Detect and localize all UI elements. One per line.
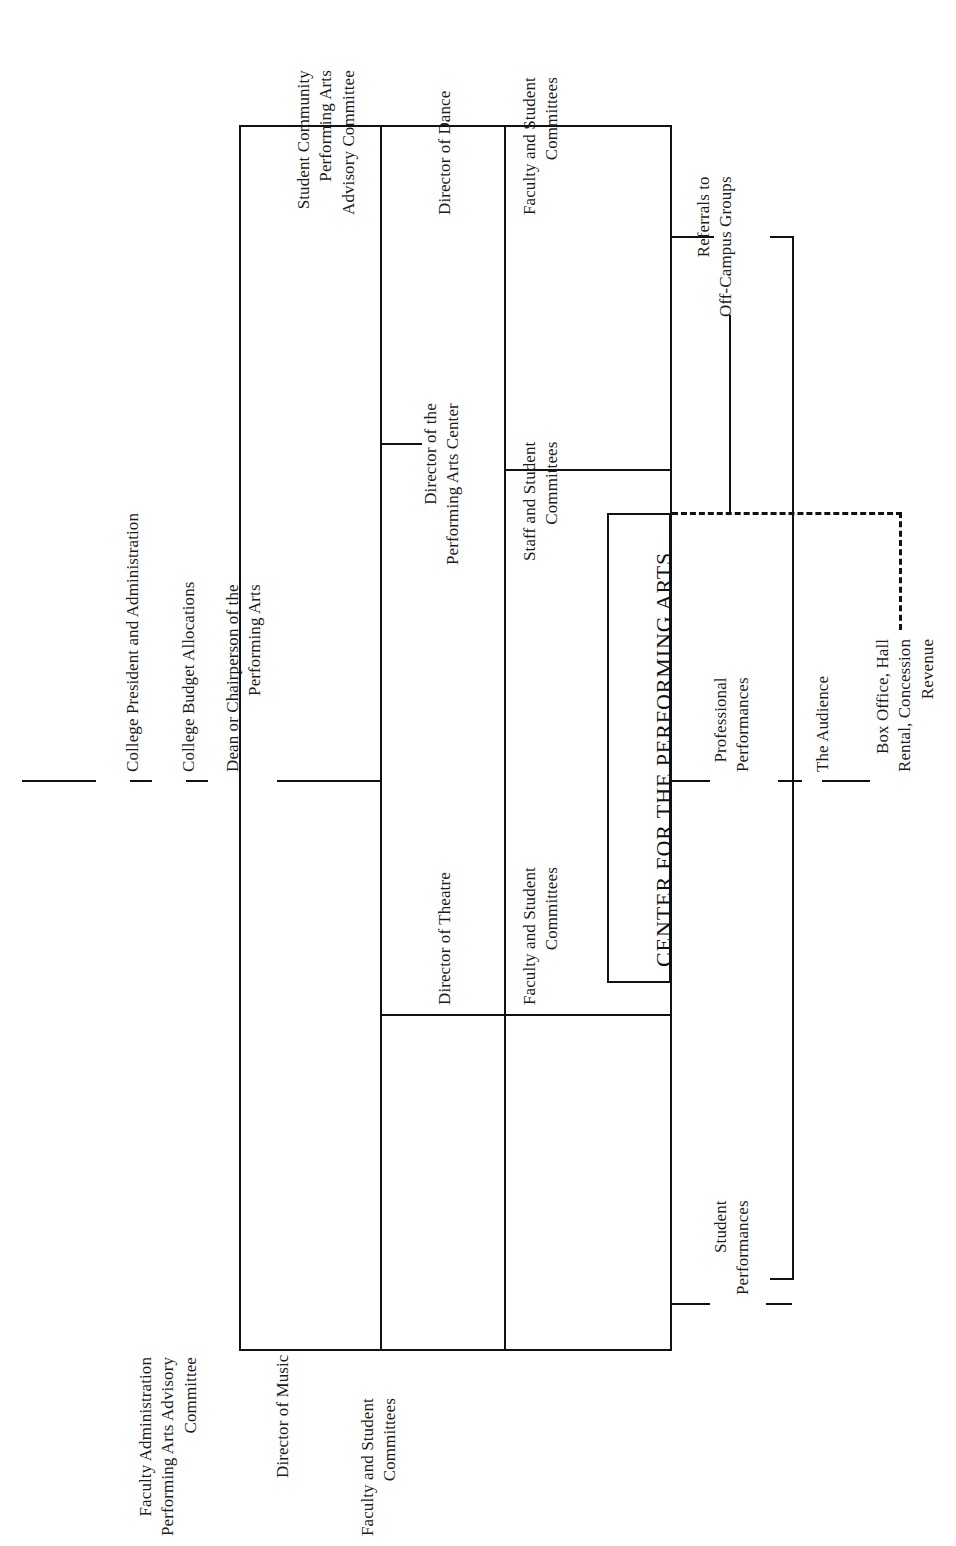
connector-directors-trunk	[380, 125, 382, 1351]
connector-tick-director-pac	[382, 443, 422, 445]
connector-president-stub	[22, 780, 96, 782]
label-professional-performances: Professional Performances	[710, 677, 755, 772]
label-director-music: Director of Music	[272, 1355, 294, 1479]
connector-audience-stub-left	[778, 780, 802, 782]
connector-tick-director-music	[382, 1349, 504, 1351]
connector-committees-theatre-to-spine	[506, 1014, 672, 1016]
label-director-performing-arts-center: Director of the Performing Arts Center	[420, 403, 465, 565]
connector-dean-to-trunk	[277, 780, 381, 782]
connector-audience-stub-right	[822, 780, 870, 782]
connector-student-performances-bracket-top	[766, 1303, 792, 1305]
connector-tick-professional-performances	[672, 780, 710, 782]
label-student-performances: Student Performances	[710, 1200, 755, 1295]
center-for-performing-arts-box: CENTER FOR THE PERFORMING ARTS	[607, 513, 671, 983]
connector-budget-stub-2	[186, 780, 208, 782]
connector-left-trunk-bottom	[239, 1349, 381, 1351]
connector-offcampus-bracket-top	[770, 236, 794, 238]
center-title: CENTER FOR THE PERFORMING ARTS	[651, 552, 677, 967]
connector-committees-music-to-spine	[506, 1349, 672, 1351]
label-dean: Dean or Chairperson of the Performing Ar…	[222, 584, 267, 772]
connector-offcampus-bracket-bottom	[770, 1278, 794, 1280]
label-faculty-student-committees-dance: Faculty and Student Committees	[519, 77, 564, 215]
connector-tick-student-performances	[672, 1303, 710, 1305]
org-chart-canvas: CENTER FOR THE PERFORMING ARTS College P…	[0, 0, 956, 1546]
connector-committees-trunk-dance	[504, 125, 506, 1351]
dashed-revenue-horizontal	[672, 512, 902, 515]
label-student-community-committee: Student Community Performing Arts Adviso…	[293, 70, 360, 215]
label-staff-student-committees: Staff and Student Committees	[519, 442, 564, 561]
dashed-revenue-vertical	[899, 512, 902, 630]
connector-tick-director-theatre	[382, 1014, 504, 1016]
connector-offcampus-bracket-vertical	[792, 236, 794, 1280]
connector-referrals-vertical	[729, 315, 731, 515]
label-box-office-revenue: Box Office, Hall Rental, Concession Reve…	[872, 639, 939, 772]
label-college-president: College President and Administration	[122, 513, 144, 772]
label-college-budget: College Budget Allocations	[178, 581, 200, 772]
label-faculty-student-committees-music: Faculty and Student Committees	[357, 1398, 402, 1536]
label-faculty-student-committees-theatre: Faculty and Student Committees	[519, 867, 564, 1005]
label-director-theatre: Director of Theatre	[434, 872, 456, 1005]
label-director-dance: Director of Dance	[434, 91, 456, 215]
label-referrals-off-campus: Referrals to Off-Campus Groups	[693, 176, 738, 317]
label-the-audience: The Audience	[812, 676, 834, 772]
label-faculty-admin-committee: Faculty Administration Performing Arts A…	[135, 1357, 202, 1536]
connector-budget-stub-1	[130, 780, 152, 782]
